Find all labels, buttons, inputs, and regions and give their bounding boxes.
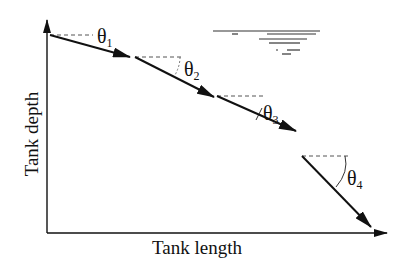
x-axis-label: Tank length: [152, 237, 242, 259]
trajectory-segment-3: [217, 96, 296, 131]
angle-label-theta-1: θ1: [97, 25, 113, 51]
angle-label-theta-3: θ3: [263, 102, 279, 128]
trajectory-segment-2: [135, 57, 214, 97]
water-surface-icon: [213, 31, 320, 54]
angle-label-theta-4: θ4: [347, 167, 363, 193]
trajectory-segment-1: [50, 35, 130, 57]
y-axis-label: Tank depth: [21, 92, 43, 177]
diagram-canvas: [0, 0, 403, 271]
angle-label-theta-2: θ2: [184, 58, 200, 84]
